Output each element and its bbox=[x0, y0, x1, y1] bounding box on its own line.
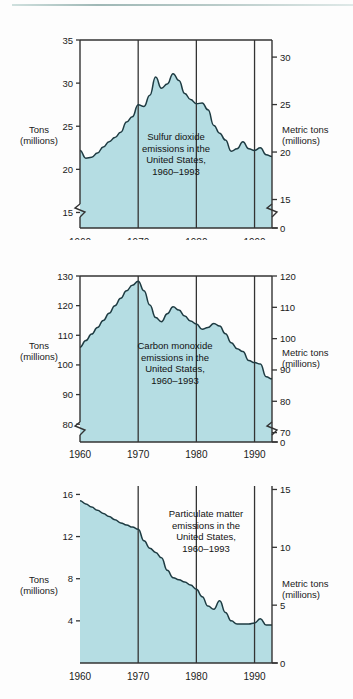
ytick-label-left-15: 15 bbox=[62, 207, 73, 218]
ytick-label-right-0: 0 bbox=[280, 437, 285, 448]
ytick-label-left-12: 12 bbox=[62, 531, 73, 542]
chart-panel-particulate-matter: 4812160510151960197019801990 Tons (milli… bbox=[0, 470, 353, 695]
ytick-label-left-20: 20 bbox=[62, 164, 73, 175]
ytick-label-right-100: 100 bbox=[280, 333, 296, 344]
xtick-label-1980: 1980 bbox=[185, 671, 208, 682]
xtick-label-1960: 1960 bbox=[69, 237, 92, 240]
figure-sheet: 15202530350152025301960197019801990 Tons… bbox=[0, 0, 353, 699]
ytick-label-right-0: 0 bbox=[280, 658, 285, 669]
chart-panel-sulfur-dioxide: 15202530350152025301960197019801990 Tons… bbox=[0, 14, 353, 240]
chart-panel-carbon-monoxide: 8090100110120130070809010011012019601970… bbox=[0, 252, 353, 464]
left-axis-title-2: Tons (millions) bbox=[6, 340, 72, 362]
right-axis-title-1: Metric tons (millions) bbox=[282, 124, 352, 146]
ytick-label-left-130: 130 bbox=[57, 271, 73, 282]
xtick-label-1970: 1970 bbox=[127, 237, 150, 240]
ytick-label-right-25: 25 bbox=[280, 99, 291, 110]
ytick-label-right-0: 0 bbox=[280, 223, 285, 234]
ytick-label-right-80: 80 bbox=[280, 396, 291, 407]
xtick-label-1960: 1960 bbox=[69, 449, 92, 460]
ytick-label-left-80: 80 bbox=[62, 419, 73, 430]
ytick-label-right-5: 5 bbox=[280, 600, 285, 611]
xtick-label-1980: 1980 bbox=[185, 237, 208, 240]
right-axis-title-2: Metric tons (millions) bbox=[282, 347, 352, 369]
ytick-label-left-120: 120 bbox=[57, 300, 73, 311]
top-rule-divider bbox=[12, 4, 353, 6]
chart-caption-particulate-matter: Particulate matter emissions in the Unit… bbox=[142, 508, 270, 554]
ytick-label-right-70: 70 bbox=[280, 427, 291, 438]
ytick-label-right-15: 15 bbox=[280, 484, 291, 495]
left-axis-title-3: Tons (millions) bbox=[6, 574, 72, 596]
ytick-label-left-90: 90 bbox=[62, 389, 73, 400]
xtick-label-1990: 1990 bbox=[243, 671, 266, 682]
ytick-label-right-110: 110 bbox=[280, 302, 295, 313]
ytick-label-left-30: 30 bbox=[62, 78, 73, 89]
chart-caption-sulfur-dioxide: Sulfur dioxide emissions in the United S… bbox=[118, 131, 234, 177]
xtick-label-1990: 1990 bbox=[243, 449, 266, 460]
ytick-label-right-30: 30 bbox=[280, 52, 291, 63]
xtick-label-1970: 1970 bbox=[127, 671, 150, 682]
xtick-label-1960: 1960 bbox=[69, 671, 92, 682]
chart-caption-carbon-monoxide: Carbon monoxide emissions in the United … bbox=[112, 340, 238, 386]
xtick-label-1980: 1980 bbox=[185, 449, 208, 460]
ytick-label-left-4: 4 bbox=[68, 615, 73, 626]
left-axis-title-1: Tons (millions) bbox=[6, 124, 72, 146]
ytick-label-right-10: 10 bbox=[280, 542, 291, 553]
ytick-label-right-20: 20 bbox=[280, 147, 291, 158]
ytick-label-left-35: 35 bbox=[62, 35, 73, 46]
ytick-label-left-16: 16 bbox=[62, 489, 73, 500]
xtick-label-1970: 1970 bbox=[127, 449, 150, 460]
right-axis-title-3: Metric tons (millions) bbox=[282, 578, 352, 600]
xtick-label-1990: 1990 bbox=[243, 237, 266, 240]
ytick-label-right-15: 15 bbox=[280, 194, 291, 205]
ytick-label-right-120: 120 bbox=[280, 271, 296, 282]
